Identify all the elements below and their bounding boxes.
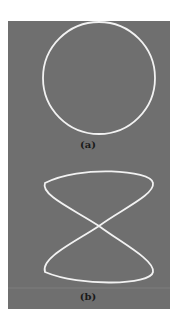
circle-curve	[43, 22, 155, 134]
panel-a-label: (a)	[0, 139, 176, 150]
figure-eight-curve	[45, 171, 154, 282]
panel-b-label: (b)	[0, 291, 176, 302]
lissajous-figures	[0, 0, 176, 323]
